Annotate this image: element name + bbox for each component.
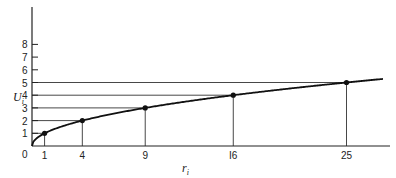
data-point: [42, 131, 47, 136]
chart: 12345678 149I625 0 Ui ri: [0, 0, 396, 178]
y-tick-label: 6: [22, 65, 28, 76]
sqrt-curve: [32, 79, 383, 146]
y-ticks: 12345678: [22, 39, 38, 139]
data-point: [80, 118, 85, 123]
x-tick-label: 1: [42, 150, 48, 161]
x-tick-label: 4: [80, 150, 86, 161]
data-point: [143, 105, 148, 110]
axes: [32, 7, 390, 146]
data-point: [344, 80, 349, 85]
y-tick-label: 1: [22, 128, 28, 139]
y-tick-label: 2: [22, 116, 28, 127]
x-tick-label: 25: [341, 150, 353, 161]
y-tick-label: 8: [22, 39, 28, 50]
guide-lines: [32, 83, 347, 147]
x-tick-label: 9: [142, 150, 148, 161]
origin-label: 0: [22, 149, 28, 160]
y-tick-label: 7: [22, 52, 28, 63]
data-point: [231, 93, 236, 98]
y-tick-label: 5: [22, 78, 28, 89]
x-tick-label: I6: [229, 150, 238, 161]
x-axis-label: ri: [182, 161, 189, 177]
x-ticks: 149I625: [42, 150, 353, 161]
